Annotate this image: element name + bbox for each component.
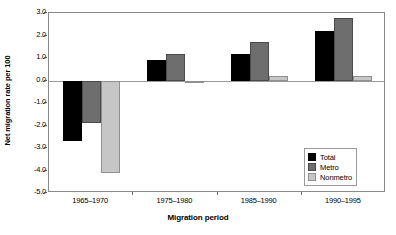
bar-total-0 xyxy=(63,81,82,142)
bar-metro-2 xyxy=(250,42,269,80)
y-axis-title: Net migration rate per 100 xyxy=(0,0,16,200)
y-axis-tick-mark xyxy=(44,80,47,81)
x-axis-tick-label: 1965–1970 xyxy=(50,196,130,205)
legend-item-total: Total xyxy=(308,152,352,162)
y-axis-tick-label: 2.0 xyxy=(22,31,46,39)
bar-total-3 xyxy=(315,31,334,81)
y-axis-tick-mark xyxy=(44,147,47,148)
legend-swatch-total-icon xyxy=(308,153,316,161)
x-axis-title: Migration period xyxy=(0,213,396,222)
bar-metro-1 xyxy=(166,54,185,81)
y-axis-tick-label: -4.0 xyxy=(22,166,46,174)
y-axis-title-text: Net migration rate per 100 xyxy=(4,55,13,145)
y-axis-tick-labels: 3.02.01.00.0-1.0-2.0-3.0-4.0-5.0 xyxy=(18,0,46,235)
x-axis-tick-label: 1990–1995 xyxy=(303,196,383,205)
x-axis-tick-label: 1975–1980 xyxy=(134,196,214,205)
y-axis-tick-label: 3.0 xyxy=(22,8,46,16)
legend-swatch-nonmetro-icon xyxy=(308,173,316,181)
bar-nonmetro-2 xyxy=(269,76,288,81)
bar-chart-figure: Net migration rate per 100 3.02.01.00.0-… xyxy=(0,0,396,235)
x-axis-tick-mark xyxy=(217,192,218,195)
y-axis-tick-label: 1.0 xyxy=(22,53,46,61)
y-axis-tick-mark xyxy=(44,192,47,193)
y-axis-tick-mark xyxy=(44,57,47,58)
legend-label: Total xyxy=(320,153,335,162)
legend-label: Metro xyxy=(320,163,339,172)
bar-metro-0 xyxy=(82,81,101,124)
x-axis-tick-mark xyxy=(301,192,302,195)
chart-legend: TotalMetroNonmetro xyxy=(304,148,357,186)
y-axis-tick-label: -3.0 xyxy=(22,143,46,151)
y-axis-tick-label: -5.0 xyxy=(22,188,46,196)
legend-label: Nonmetro xyxy=(320,173,352,182)
bar-nonmetro-0 xyxy=(101,81,120,173)
y-axis-tick-mark xyxy=(44,170,47,171)
bar-nonmetro-1 xyxy=(185,81,204,83)
y-axis-tick-mark xyxy=(44,12,47,13)
y-axis-tick-mark xyxy=(44,35,47,36)
legend-item-nonmetro: Nonmetro xyxy=(308,172,352,182)
bar-metro-3 xyxy=(334,18,353,81)
legend-item-metro: Metro xyxy=(308,162,352,172)
x-axis-tick-mark xyxy=(132,192,133,195)
legend-swatch-metro-icon xyxy=(308,163,316,171)
x-axis-tick-label: 1985–1990 xyxy=(219,196,299,205)
y-axis-tick-label: 0.0 xyxy=(22,76,46,84)
bar-total-2 xyxy=(231,54,250,81)
bar-nonmetro-3 xyxy=(353,76,372,81)
y-axis-tick-mark xyxy=(44,125,47,126)
y-axis-tick-label: -2.0 xyxy=(22,121,46,129)
y-axis-tick-label: -1.0 xyxy=(22,98,46,106)
y-axis-tick-mark xyxy=(44,102,47,103)
bar-total-1 xyxy=(147,60,166,80)
